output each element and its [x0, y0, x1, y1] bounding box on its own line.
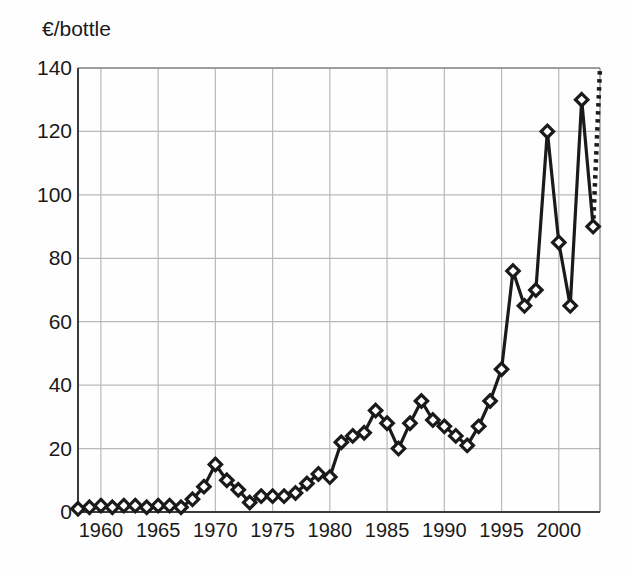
x-tick-label: 1995: [479, 519, 524, 542]
x-tick-label: 1970: [193, 519, 238, 542]
plot-area: [0, 0, 632, 571]
forecast-dotted-line: [593, 68, 600, 227]
x-tick-label: 1990: [422, 519, 467, 542]
x-tick-label: 1975: [250, 519, 295, 542]
price-series-markers: [72, 94, 600, 516]
x-tick-label: 1980: [308, 519, 353, 542]
x-tick-label: 1985: [365, 519, 410, 542]
x-tick-label: 2000: [537, 519, 582, 542]
chart-figure: €/bottle 020406080100120140 196019651970…: [0, 0, 632, 571]
x-tick-label: 1965: [136, 519, 181, 542]
price-series-line: [78, 100, 593, 509]
x-tick-label: 1960: [79, 519, 124, 542]
